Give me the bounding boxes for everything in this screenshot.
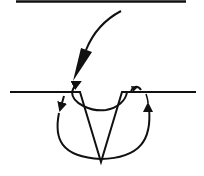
arrowhead-icon <box>73 48 92 81</box>
outer-loop-left-down-arrow <box>60 96 64 110</box>
outer-loop-right-connector <box>146 94 148 103</box>
incoming-curved-arrow <box>86 11 121 50</box>
diagram-canvas <box>0 0 204 176</box>
inner-arc-left-up-arrow <box>72 82 80 92</box>
